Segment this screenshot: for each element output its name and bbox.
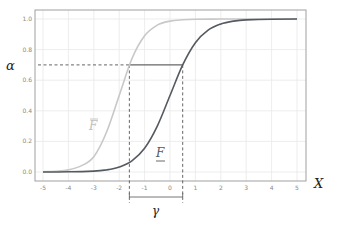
upper-curve-label: F <box>88 119 98 133</box>
x-tick-label: 2 <box>219 184 223 191</box>
y-tick-label: 0.0 <box>22 168 32 175</box>
x-tick-label: 0 <box>168 184 172 191</box>
y-tick-label: 0.8 <box>22 46 32 53</box>
lower-curve-letter: F <box>155 146 165 160</box>
x-tick-label: 5 <box>295 184 299 191</box>
x-tick-label: -2 <box>116 184 122 191</box>
x-axis-label: X <box>313 176 324 191</box>
alpha-label: α <box>6 58 15 73</box>
y-tick-label: 0.6 <box>22 76 32 83</box>
lower-curve-label: F <box>155 146 165 161</box>
upper-curve-letter: F <box>88 119 98 133</box>
x-tick-label: 3 <box>244 184 248 191</box>
x-tick-label: -1 <box>142 184 148 191</box>
x-tick-label: -4 <box>65 184 71 191</box>
cdf-chart: 0.00.20.40.60.81.0 -5-4-3-2-1012345 α X … <box>0 0 341 226</box>
y-axis-ticks: 0.00.20.40.60.81.0 <box>22 15 32 175</box>
x-tick-label: 4 <box>270 184 274 191</box>
x-tick-label: -3 <box>91 184 97 191</box>
annotation-lines <box>38 65 183 203</box>
y-tick-label: 1.0 <box>22 15 32 22</box>
x-tick-label: -5 <box>40 184 46 191</box>
x-axis-ticks: -5-4-3-2-1012345 <box>40 184 299 191</box>
x-tick-label: 1 <box>193 184 197 191</box>
y-tick-label: 0.2 <box>22 137 32 144</box>
y-tick-label: 0.4 <box>22 107 32 114</box>
gamma-bracket <box>129 193 182 197</box>
gamma-label: γ <box>152 204 160 218</box>
